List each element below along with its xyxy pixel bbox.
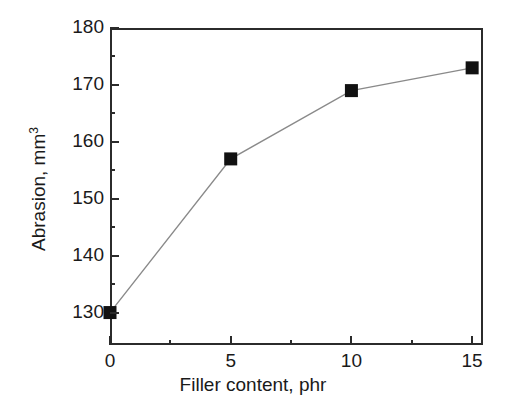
- y-tick-minor: [110, 226, 115, 228]
- axis-ticks: 130140150160170180051015: [0, 0, 506, 417]
- y-tick-minor: [110, 112, 115, 114]
- y-tick-major: [110, 198, 119, 200]
- x-tick-label: 5: [201, 350, 261, 372]
- y-tick-label: 170: [46, 73, 104, 95]
- y-tick-major: [110, 312, 119, 314]
- x-tick-minor: [411, 340, 413, 345]
- x-tick-minor: [290, 340, 292, 345]
- x-tick-major: [350, 336, 352, 345]
- y-axis-title-text: Abrasion, mm: [28, 134, 49, 251]
- y-axis-title: Abrasion, mm3: [28, 74, 50, 304]
- x-tick-major: [230, 336, 232, 345]
- y-tick-major: [110, 27, 119, 29]
- x-tick-label: 10: [321, 350, 381, 372]
- y-tick-label: 160: [46, 130, 104, 152]
- y-tick-label: 180: [46, 16, 104, 38]
- x-tick-label: 0: [80, 350, 140, 372]
- x-tick-major: [109, 336, 111, 345]
- abrasion-vs-filler-chart: 130140150160170180051015 Abrasion, mm3 F…: [0, 0, 506, 417]
- y-axis-title-superscript: 3: [27, 127, 41, 134]
- y-tick-minor: [110, 283, 115, 285]
- y-tick-major: [110, 255, 119, 257]
- y-tick-label: 130: [46, 301, 104, 323]
- x-tick-minor: [169, 340, 171, 345]
- y-tick-minor: [110, 169, 115, 171]
- y-tick-major: [110, 84, 119, 86]
- x-axis-title: Filler content, phr: [0, 374, 506, 396]
- x-tick-major: [471, 336, 473, 345]
- y-tick-minor: [110, 55, 115, 57]
- y-tick-label: 140: [46, 244, 104, 266]
- x-tick-label: 15: [442, 350, 502, 372]
- y-tick-major: [110, 141, 119, 143]
- y-tick-label: 150: [46, 187, 104, 209]
